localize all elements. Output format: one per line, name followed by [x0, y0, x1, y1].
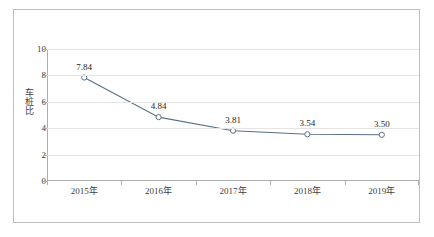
- y-axis-tick: [43, 49, 47, 50]
- x-axis-category-label: 2018年: [294, 186, 321, 197]
- y-axis-tick: [43, 155, 47, 156]
- gridline: [47, 102, 419, 103]
- gridline: [47, 128, 419, 129]
- gridline: [47, 155, 419, 156]
- data-point-marker[interactable]: [156, 115, 161, 120]
- data-point-marker[interactable]: [379, 132, 384, 137]
- x-axis-tick: [196, 181, 197, 185]
- data-point-marker[interactable]: [305, 132, 310, 137]
- plot-area: 7.844.843.813.543.50: [47, 49, 419, 181]
- x-axis-tick-labels: 2015年2016年2017年2018年2019年: [47, 186, 419, 202]
- x-axis-category-label: 2017年: [220, 186, 247, 197]
- series-line: [84, 78, 382, 135]
- y-axis-tick: [43, 102, 47, 103]
- x-axis-tick: [345, 181, 346, 185]
- y-axis-tick: [43, 75, 47, 76]
- gridline: [47, 49, 419, 50]
- x-axis-tick: [270, 181, 271, 185]
- chart-frame: 车桩比 0246810 7.844.843.813.543.50 2015年20…: [13, 9, 420, 223]
- x-axis-tick: [418, 181, 419, 185]
- x-axis-category-label: 2019年: [368, 186, 395, 197]
- chart-container: 车桩比 0246810 7.844.843.813.543.50 2015年20…: [14, 10, 419, 222]
- y-axis-tick: [43, 128, 47, 129]
- y-axis-tick-labels: 0246810: [26, 10, 46, 222]
- data-point-label: 7.84: [76, 62, 92, 72]
- x-axis-category-label: 2015年: [71, 186, 98, 197]
- x-axis-tick: [121, 181, 122, 185]
- data-point-label: 3.81: [225, 115, 241, 125]
- data-point-label: 4.84: [151, 101, 167, 111]
- x-axis-category-label: 2016年: [145, 186, 172, 197]
- data-point-label: 3.54: [300, 118, 316, 128]
- data-point-label: 3.50: [374, 119, 390, 129]
- gridline: [47, 75, 419, 76]
- x-axis-tick: [47, 181, 48, 185]
